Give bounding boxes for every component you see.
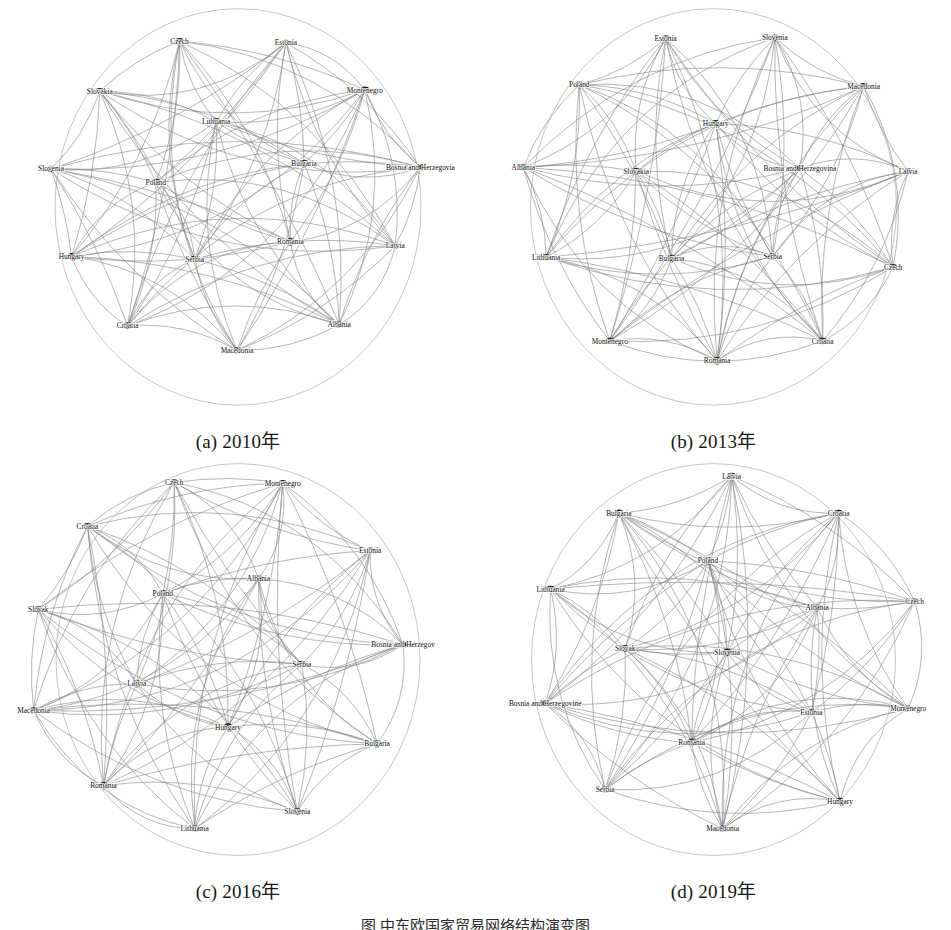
panel-a-svg: CzechEstoniaMontenegroSlovakiaLithuaniaB… xyxy=(0,0,476,455)
graph-node-label: Croatia xyxy=(828,508,850,517)
graph-node[interactable]: Romania xyxy=(704,356,731,365)
graph-node-label: Slovenia xyxy=(714,648,740,657)
graph-edge xyxy=(339,246,395,325)
graph-node-label: Estonia xyxy=(275,38,298,47)
graph-node[interactable]: Croatia xyxy=(812,336,834,345)
graph-node[interactable]: Albania xyxy=(806,603,830,612)
graph-node[interactable]: Bulgaria xyxy=(659,254,685,263)
graph-node-label: Slovak xyxy=(615,644,636,653)
graph-node[interactable]: Montenegro xyxy=(265,479,301,488)
graph-edge xyxy=(38,526,87,609)
graph-node[interactable]: Czech xyxy=(170,36,189,45)
graph-node[interactable]: Croatia xyxy=(117,321,139,330)
graph-node[interactable]: Bosnia and Herzegovia xyxy=(386,163,455,172)
graph-node[interactable]: Bosnia and Herzegovine xyxy=(509,699,582,708)
graph-node[interactable]: Macedonia xyxy=(221,346,254,355)
graph-node[interactable]: Croatia xyxy=(77,522,99,531)
graph-node[interactable]: Poland xyxy=(146,178,167,187)
graph-node[interactable]: Serbia xyxy=(763,252,782,261)
graph-node[interactable]: Estonia xyxy=(359,546,382,555)
panel-b: EstoniaSloveniaPolandMacedoniaHungaryAlb… xyxy=(476,0,951,455)
graph-node-label: Montenegro xyxy=(265,479,301,488)
graph-node[interactable]: Macedonia xyxy=(847,82,880,91)
graph-edge xyxy=(72,252,195,260)
graph-node-label: Bulgaria xyxy=(291,159,317,168)
graph-edge xyxy=(72,257,128,326)
graph-node[interactable]: Slovenia xyxy=(284,807,310,816)
graph-node[interactable]: Poland xyxy=(153,589,174,598)
panel-a: CzechEstoniaMontenegroSlovakiaLithuaniaB… xyxy=(0,0,476,455)
graph-node[interactable]: Albania xyxy=(512,163,536,172)
graph-node[interactable]: Hungary xyxy=(215,722,241,731)
graph-node[interactable]: Slovenia xyxy=(38,164,64,173)
graph-edge xyxy=(51,169,339,325)
graph-node[interactable]: Estonia xyxy=(275,38,298,47)
graph-edge xyxy=(732,476,909,708)
graph-node[interactable]: Montenegro xyxy=(890,704,926,713)
graph-edge xyxy=(716,38,775,124)
graph-node[interactable]: Czech xyxy=(165,478,184,487)
graph-node[interactable]: Estonia xyxy=(655,34,678,43)
graph-edge xyxy=(708,513,839,561)
graph-node[interactable]: Lithuania xyxy=(532,253,561,262)
graph-node[interactable]: Bulgaria xyxy=(364,739,390,748)
graph-edge xyxy=(610,38,666,340)
graph-node[interactable]: Slovak xyxy=(615,644,636,653)
graph-edge xyxy=(31,609,38,710)
graph-node[interactable]: Poland xyxy=(569,80,590,89)
graph-node-label: Bulgaria xyxy=(606,508,632,517)
graph-node[interactable]: Bosnia and Herzegov xyxy=(371,640,435,649)
graph-node[interactable]: Croatia xyxy=(828,508,850,517)
panel-a-graph: CzechEstoniaMontenegroSlovakiaLithuaniaB… xyxy=(0,0,476,455)
graph-node[interactable]: Romania xyxy=(277,237,304,246)
graph-node[interactable]: Montenegro xyxy=(592,336,628,345)
graph-edge xyxy=(297,664,307,811)
graph-node[interactable]: Montenegro xyxy=(347,85,383,94)
graph-node[interactable]: Slovakia xyxy=(623,167,649,176)
graph-node[interactable]: Lithuania xyxy=(202,117,231,126)
graph-node[interactable]: Latvia xyxy=(127,679,146,688)
graph-edge xyxy=(34,710,298,811)
graph-edge xyxy=(716,124,725,361)
graph-outer-ring xyxy=(531,9,897,406)
graph-node[interactable]: Hungary xyxy=(827,797,853,806)
graph-node[interactable]: Latvia xyxy=(722,471,741,480)
graph-edge xyxy=(395,167,420,246)
graph-edge xyxy=(551,513,619,589)
panel-d-svg: LatviaBulgariaCroatiaPolandLithuaniaAlba… xyxy=(476,455,951,905)
graph-node[interactable]: Macedonia xyxy=(706,824,739,833)
graph-node[interactable]: Bosnia and Herzegovina xyxy=(764,164,837,173)
graph-node[interactable]: Macedonia xyxy=(17,706,50,715)
graph-node[interactable]: Albania xyxy=(247,574,271,583)
graph-node[interactable]: Romania xyxy=(90,781,117,790)
graph-node[interactable]: Romania xyxy=(678,738,705,747)
graph-node[interactable]: Bulgaria xyxy=(606,508,632,517)
graph-node[interactable]: Hungary xyxy=(59,252,85,261)
graph-node[interactable]: Latvia xyxy=(899,167,918,176)
graph-node-label: Macedonia xyxy=(706,824,739,833)
graph-node[interactable]: Albania xyxy=(328,320,352,329)
graph-node[interactable]: Serbia xyxy=(292,660,311,669)
graph-node[interactable]: Slovak xyxy=(28,605,49,614)
graph-node[interactable]: Serbia xyxy=(185,255,204,264)
graph-edge xyxy=(666,38,823,340)
graph-node-label: Bosnia and Herzegovina xyxy=(764,164,837,173)
graph-node[interactable]: Latvia xyxy=(386,241,405,250)
graph-node[interactable]: Estonia xyxy=(800,708,823,717)
graph-node[interactable]: Lithuania xyxy=(536,584,565,593)
graph-node[interactable]: Slovakia xyxy=(87,86,113,95)
graph-edge xyxy=(579,85,716,124)
graph-node[interactable]: Czech xyxy=(884,262,903,271)
graph-node-label: Lithuania xyxy=(181,824,210,833)
graph-node[interactable]: Lithuania xyxy=(181,824,210,833)
graph-edge xyxy=(610,171,908,341)
graph-node[interactable]: Slovenia xyxy=(714,648,740,657)
graph-node[interactable]: Bulgaria xyxy=(291,159,317,168)
graph-node-label: Albania xyxy=(512,163,536,172)
graph-node[interactable]: Czech xyxy=(905,597,924,606)
graph-node[interactable]: Serbia xyxy=(596,785,615,794)
graph-node[interactable]: Hungary xyxy=(703,119,729,128)
graph-node[interactable]: Slovenia xyxy=(762,33,788,42)
graph-node-label: Latvia xyxy=(899,167,918,176)
graph-node[interactable]: Poland xyxy=(698,556,719,565)
